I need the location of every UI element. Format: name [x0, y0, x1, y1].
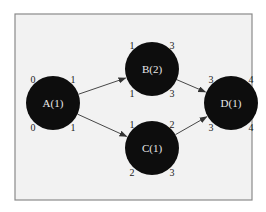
node-bottom-right-value: 4 — [249, 122, 254, 133]
node-top-left-value: 0 — [31, 74, 36, 85]
node-c: C(1)1223 — [125, 119, 179, 178]
node-bottom-left-value: 3 — [209, 122, 214, 133]
node-top-right-value: 1 — [71, 74, 76, 85]
node-bottom-right-value: 1 — [71, 122, 76, 133]
node-label: B(2) — [142, 63, 163, 76]
node-top-right-value: 2 — [170, 119, 175, 130]
node-b: B(2)1313 — [125, 40, 179, 99]
node-label: D(1) — [221, 97, 242, 110]
node-label: A(1) — [43, 97, 64, 110]
node-bottom-left-value: 2 — [130, 167, 135, 178]
node-top-left-value: 1 — [130, 119, 135, 130]
node-bottom-left-value: 0 — [31, 122, 36, 133]
node-top-left-value: 1 — [130, 40, 135, 51]
node-d: D(1)3434 — [204, 74, 258, 133]
node-label: C(1) — [142, 142, 163, 155]
node-bottom-right-value: 3 — [170, 88, 175, 99]
node-top-right-value: 4 — [249, 74, 254, 85]
node-bottom-left-value: 1 — [130, 88, 135, 99]
node-top-left-value: 3 — [209, 74, 214, 85]
network-diagram: A(1)0101B(2)1313C(1)1223D(1)3434 — [0, 0, 266, 212]
node-bottom-right-value: 3 — [170, 167, 175, 178]
node-a: A(1)0101 — [26, 74, 80, 133]
node-top-right-value: 3 — [170, 40, 175, 51]
